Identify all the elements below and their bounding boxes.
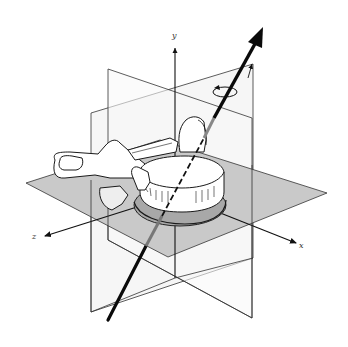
x-axis-label: x [299, 241, 304, 250]
z-axis-label: z [32, 232, 36, 241]
vertebra-planes-diagram: y z x [0, 0, 348, 347]
y-axis-label: y [172, 31, 177, 40]
